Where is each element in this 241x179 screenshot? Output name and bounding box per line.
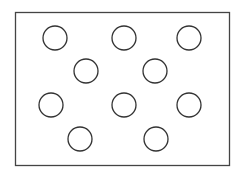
circle-5: [143, 59, 167, 83]
circle-4: [74, 59, 98, 83]
circles-diagram: [0, 0, 241, 179]
circle-3: [177, 26, 201, 50]
circle-2: [112, 26, 136, 50]
circle-group: [39, 26, 201, 151]
circle-7: [112, 93, 136, 117]
circle-1: [43, 26, 67, 50]
circle-8: [177, 93, 201, 117]
frame-rectangle: [16, 13, 230, 166]
circle-6: [39, 93, 63, 117]
circle-9: [68, 127, 92, 151]
circle-10: [144, 127, 168, 151]
